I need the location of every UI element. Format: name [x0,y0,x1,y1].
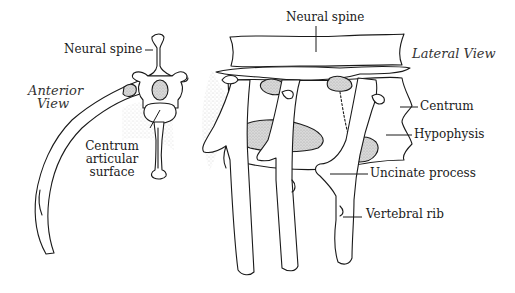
label-lateral-view: Lateral View [412,47,496,60]
label-lateral-neural-spine: Neural spine [286,11,364,24]
label-hypophysis: Hypophysis [414,128,485,141]
label-anterior-neural-spine: Neural spine [64,43,142,56]
vertebra-diagram: Neural spine Anterior View Centrum artic… [0,0,515,293]
label-vertebral-rib: Vertebral rib [366,208,444,221]
label-anterior-view-line2: View [28,97,78,110]
label-uncinate-process: Uncinate process [370,167,476,180]
label-centrum-articular-surface: Centrum articular surface [82,140,142,179]
label-anterior-view: Anterior View [28,84,78,110]
label-centrum: Centrum [420,100,474,113]
lateral-view-drawing [202,34,412,275]
label-centrum-articular-line3: surface [82,166,142,179]
